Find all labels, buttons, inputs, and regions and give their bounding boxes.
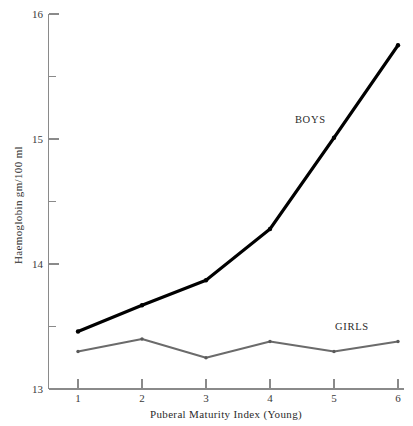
- data-point: [140, 337, 143, 340]
- data-point: [268, 227, 272, 231]
- x-tick-label-3: 3: [203, 392, 209, 404]
- haemoglobin-line-chart: 16 15 14 13 Haemoglobin gm/100 ml 1 2 3 …: [0, 0, 413, 426]
- chart-background: [0, 0, 413, 426]
- series-label-boys: BOYS: [295, 114, 326, 125]
- data-point: [140, 303, 144, 307]
- data-point: [332, 136, 336, 140]
- data-point: [396, 43, 400, 47]
- data-point: [204, 356, 207, 359]
- series-label-girls: GIRLS: [335, 321, 369, 332]
- data-point: [268, 340, 271, 343]
- y-tick-label-15: 15: [32, 133, 44, 145]
- data-point: [332, 350, 335, 353]
- data-point: [76, 329, 80, 333]
- data-point: [204, 278, 208, 282]
- x-tick-label-2: 2: [139, 392, 145, 404]
- data-point: [396, 340, 399, 343]
- y-tick-label-13: 13: [32, 383, 44, 395]
- y-axis-title: Haemoglobin gm/100 ml: [12, 146, 24, 264]
- y-tick-label-14: 14: [32, 258, 44, 270]
- x-axis-title: Puberal Maturity Index (Young): [150, 408, 302, 421]
- x-tick-label-5: 5: [331, 392, 337, 404]
- x-tick-label-6: 6: [395, 392, 401, 404]
- x-tick-label-4: 4: [267, 392, 273, 404]
- x-tick-label-1: 1: [75, 392, 81, 404]
- data-point: [76, 350, 79, 353]
- y-tick-label-16: 16: [32, 8, 44, 20]
